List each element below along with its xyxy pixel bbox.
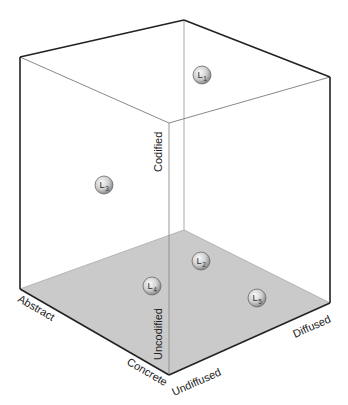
axis-label-uncodified: Uncodified — [152, 308, 164, 360]
node-letter: L — [197, 255, 202, 266]
node-L5: L 5 — [248, 289, 266, 307]
cube-floor — [20, 230, 330, 375]
node-letter: L — [148, 280, 153, 291]
node-subscript: 2 — [202, 261, 206, 268]
node-letter: L — [253, 292, 258, 303]
node-L4: L 4 — [143, 277, 161, 295]
node-L2: L 2 — [192, 252, 210, 270]
axis-label-codified: Codified — [152, 132, 164, 172]
cube-diagram: Codified Uncodified Abstract Concrete Un… — [0, 0, 348, 405]
node-letter: L — [198, 69, 203, 80]
node-subscript: 3 — [105, 185, 109, 192]
node-subscript: 4 — [153, 286, 157, 293]
node-L3: L 3 — [95, 176, 113, 194]
node-letter: L — [100, 179, 105, 190]
node-subscript: 5 — [258, 298, 262, 305]
node-subscript: 1 — [203, 75, 207, 82]
node-L1: L 1 — [193, 66, 211, 84]
